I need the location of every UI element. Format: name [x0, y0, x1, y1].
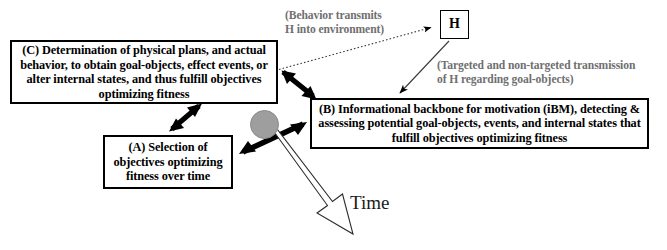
hub-circle: [250, 110, 279, 139]
node-b-label: (B) Informational backbone for motivatio…: [317, 102, 642, 146]
node-c-box[interactable]: (C) Determination of physical plans, and…: [10, 40, 278, 104]
node-h-box[interactable]: H: [440, 10, 469, 39]
diagram-canvas: (C) Determination of physical plans, and…: [0, 0, 667, 250]
node-c-label: (C) Determination of physical plans, and…: [17, 43, 271, 101]
node-a-label: (A) Selection of objectives optimizing f…: [109, 140, 227, 184]
node-b-box[interactable]: (B) Informational backbone for motivatio…: [310, 98, 649, 149]
node-h-label: H: [449, 16, 460, 33]
annotation-targeted-transmission: (Targeted and non-targeted transmission …: [437, 59, 635, 87]
edge-c-to-a-double: [169, 104, 202, 132]
node-a-box[interactable]: (A) Selection of objectives optimizing f…: [103, 135, 233, 189]
time-axis-label: Time: [350, 192, 389, 214]
annotation-behavior-transmits: (Behavior transmits H into environment): [285, 9, 384, 37]
edge-c-to-b-double: [282, 71, 317, 100]
